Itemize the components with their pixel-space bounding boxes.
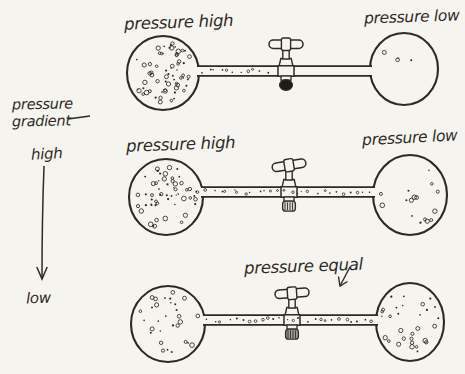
stage1-right-label: pressure low — [363, 6, 461, 27]
gradient-high-label: high — [31, 144, 63, 164]
valve-plug-open — [286, 329, 299, 339]
left-bulb — [129, 159, 203, 235]
stopcock-valve — [275, 286, 310, 339]
pressure-diagram: pressure gradient high low pressure high… — [0, 0, 465, 374]
apparatus-stage-3: pressure equal — [131, 255, 444, 362]
gradient-low-label: low — [26, 289, 52, 308]
valve-body — [278, 66, 294, 76]
apparatus-drawing-3 — [131, 283, 444, 362]
apparatus-drawing-1 — [127, 33, 438, 110]
stopcock-valve — [269, 38, 303, 90]
apparatus-drawing-2 — [129, 155, 447, 235]
apparatus-stage-1: pressure high pressure low — [123, 6, 461, 110]
valve-handle-icon — [271, 156, 307, 174]
gradient-label-line2: gradient — [12, 112, 73, 129]
stage1-left-label: pressure high — [123, 11, 234, 34]
gradient-arrow-shaft — [42, 166, 44, 277]
gradient-legend: pressure gradient high low — [11, 95, 90, 307]
stopcock-valve — [271, 156, 307, 211]
gradient-label-line1: pressure — [11, 95, 74, 112]
apparatus-stage-2: pressure high pressure low — [125, 126, 459, 235]
gradient-dash — [68, 116, 90, 119]
stage2-right-label: pressure low — [361, 126, 459, 149]
stage2-left-label: pressure high — [125, 133, 236, 156]
diagram-canvas: pressure gradient high low pressure high… — [0, 0, 465, 374]
valve-handle-icon — [269, 38, 303, 51]
valve-plug-open — [283, 201, 296, 211]
valve-plug-closed — [280, 80, 293, 91]
valve-handle-icon — [275, 286, 310, 301]
